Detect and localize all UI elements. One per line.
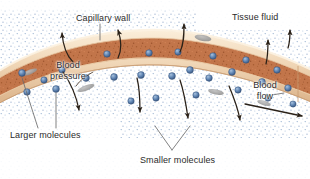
molecule-icon: [128, 98, 134, 104]
molecule-icon: [53, 86, 60, 93]
label-smaller-molecules: Smaller molecules: [140, 155, 215, 166]
molecule-icon: [169, 73, 176, 80]
label-tissue-fluid: Tissue fluid: [232, 12, 278, 23]
molecule-icon: [243, 57, 250, 64]
label-larger-molecules: Larger molecules: [10, 130, 81, 141]
molecule-icon: [235, 87, 241, 93]
molecule-icon: [285, 85, 292, 92]
molecule-icon: [138, 72, 145, 79]
label-blood-pressure: Blood pressure: [40, 60, 96, 81]
molecule-icon: [206, 75, 213, 82]
molecule-icon: [193, 92, 199, 98]
molecule-icon: [274, 67, 281, 74]
molecule-icon: [146, 50, 153, 57]
molecule-icon: [111, 74, 118, 81]
molecule-icon: [19, 70, 26, 77]
molecule-icon: [229, 69, 236, 76]
label-blood-flow: Blood flow: [245, 80, 285, 101]
capillary-exchange-diagram: Capillary wall Tissue fluid Blood pressu…: [0, 0, 310, 179]
molecule-icon: [104, 51, 111, 58]
label-capillary-wall: Capillary wall: [76, 13, 130, 24]
molecule-icon: [290, 101, 296, 107]
molecule-icon: [210, 53, 217, 60]
molecule-icon: [153, 95, 159, 101]
molecule-icon: [187, 67, 194, 74]
